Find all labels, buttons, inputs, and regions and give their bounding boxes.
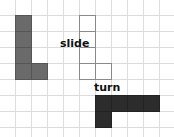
shape-cell	[31, 63, 48, 80]
shape-cell	[15, 47, 32, 64]
shape-cell	[15, 15, 32, 32]
shape-cell	[79, 15, 96, 32]
shape-cell	[127, 95, 144, 112]
slide-label: slide	[60, 38, 89, 50]
shape-cell	[79, 63, 96, 80]
shape-cell	[143, 95, 160, 112]
shape-cell	[95, 95, 112, 112]
shape-cell	[15, 31, 32, 48]
turn-label: turn	[94, 82, 120, 94]
shape-cell	[15, 63, 32, 80]
shape-cell	[95, 63, 112, 80]
shape-cell	[111, 95, 128, 112]
shape-cell	[95, 111, 112, 128]
